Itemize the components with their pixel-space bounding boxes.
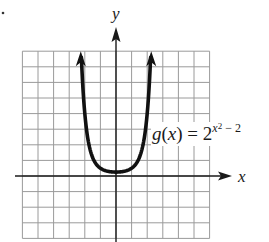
function-graph: g(x) = 2x2 − 2 y x (0, 0, 269, 242)
y-axis-label: y (110, 4, 120, 23)
x-axis-label: x (237, 167, 246, 186)
item-marker-dot (2, 12, 5, 15)
